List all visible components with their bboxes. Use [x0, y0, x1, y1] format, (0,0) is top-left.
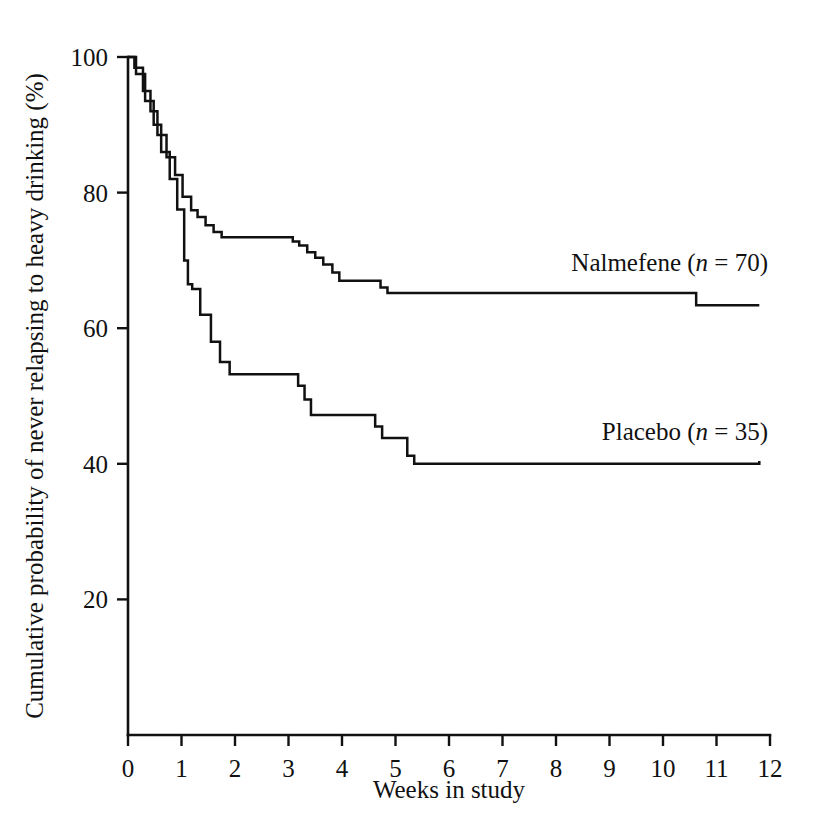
x-tick-label: 3	[282, 755, 295, 782]
x-tick-label: 2	[229, 755, 242, 782]
y-tick-label: 60	[83, 315, 108, 342]
y-tick-label: 80	[83, 180, 108, 207]
x-tick-label: 0	[122, 755, 135, 782]
series-label-placebo: Placebo (n = 35)	[602, 418, 768, 446]
x-tick-label: 1	[175, 755, 188, 782]
kaplan-meier-chart: 0123456789101112 20406080100 Nalmefene (…	[0, 0, 828, 838]
x-tick-label: 12	[758, 755, 783, 782]
y-tick-label: 40	[83, 451, 108, 478]
x-axis-title: Weeks in study	[373, 776, 526, 803]
x-tick-label: 10	[651, 755, 676, 782]
y-tick-label: 20	[83, 586, 108, 613]
x-tick-label: 8	[550, 755, 563, 782]
figure-root: 0123456789101112 20406080100 Nalmefene (…	[0, 0, 828, 838]
y-tick-label: 100	[71, 44, 109, 71]
series-label-nalmefene: Nalmefene (n = 70)	[571, 249, 768, 277]
x-tick-label: 11	[704, 755, 728, 782]
y-axis-title: Cumulative probability of never relapsin…	[21, 73, 49, 719]
x-tick-label: 4	[336, 755, 349, 782]
x-tick-label: 9	[603, 755, 616, 782]
